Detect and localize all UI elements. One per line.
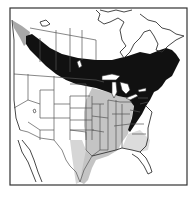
range-map bbox=[0, 0, 192, 204]
range-map-svg bbox=[0, 0, 192, 204]
